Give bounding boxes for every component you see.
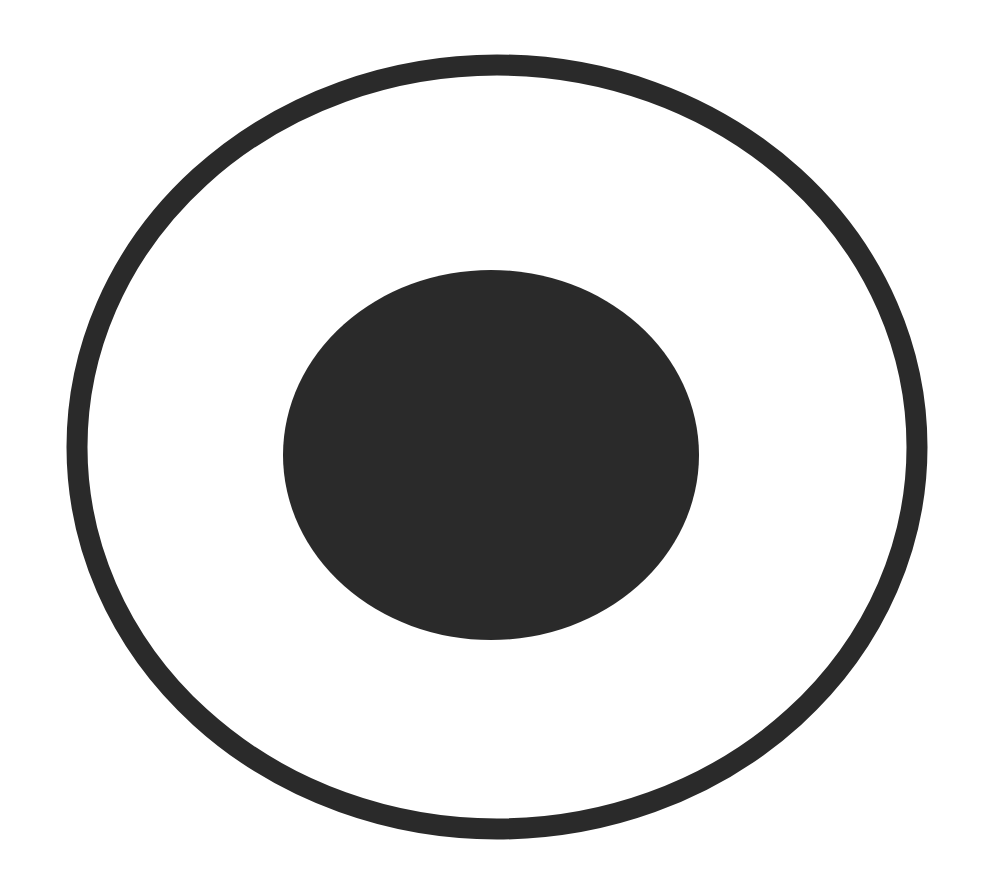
- figure-canvas: [0, 0, 989, 888]
- concentric-circles-diagram: [0, 0, 989, 888]
- inner-disc: [283, 270, 699, 640]
